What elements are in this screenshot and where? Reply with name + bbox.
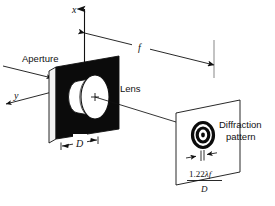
incoming-ray-group bbox=[3, 66, 52, 78]
airy-central-disk bbox=[201, 133, 205, 138]
aperture-diameter-label: D bbox=[75, 138, 84, 149]
lens-group bbox=[69, 75, 110, 119]
aperture-label: Aperture bbox=[22, 53, 58, 64]
focal-length-label-backdrop bbox=[132, 38, 150, 54]
diffraction-label-line1: Diffraction bbox=[219, 119, 262, 130]
y-axis-line bbox=[6, 92, 52, 104]
airy-pattern-group bbox=[192, 122, 214, 148]
figure-canvas: x f y bbox=[0, 0, 275, 206]
airy-width-numerator: 1.22λf bbox=[189, 169, 213, 179]
airy-width-denominator: D bbox=[200, 184, 208, 194]
y-axis-label: y bbox=[13, 90, 19, 101]
aperture-plate-edge bbox=[49, 67, 56, 143]
aperture-diameter-arrow-left bbox=[62, 144, 69, 148]
x-axis-label: x bbox=[71, 4, 77, 15]
lens-label: Lens bbox=[120, 83, 141, 94]
aperture-diameter-arrow-right bbox=[90, 138, 97, 142]
y-axis-group: y bbox=[6, 90, 52, 104]
diffraction-label-line2: pattern bbox=[226, 131, 256, 142]
optics-figure: x f y bbox=[0, 0, 275, 206]
incoming-ray-line bbox=[3, 66, 52, 78]
